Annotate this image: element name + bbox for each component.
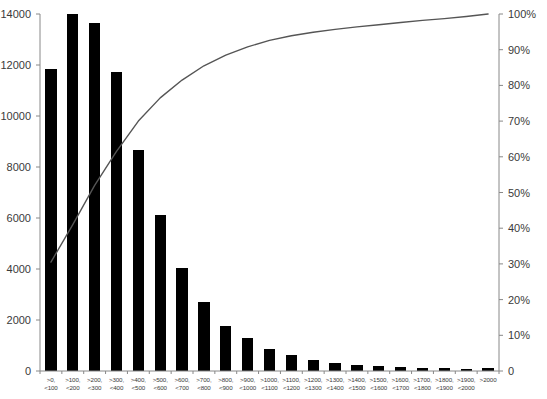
- axes-and-line-overlay: [0, 0, 547, 399]
- cumulative-histogram-chart: 02000400060008000100001200014000 010%20%…: [0, 0, 547, 399]
- cumulative-percentage-line: [51, 14, 488, 262]
